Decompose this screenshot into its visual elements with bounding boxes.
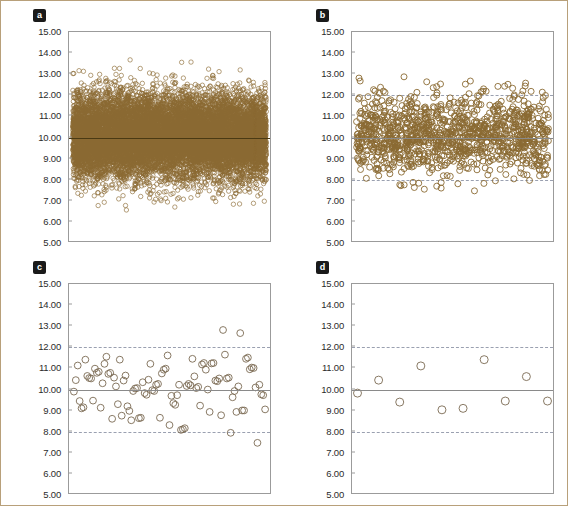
y-axis-labels-b: 15.0014.0013.0012.0011.0010.009.008.007.… bbox=[284, 1, 348, 253]
y-tick-label: 9.00 bbox=[326, 152, 344, 163]
y-tick-mark bbox=[351, 73, 355, 74]
plot-area-c bbox=[68, 283, 271, 494]
panel-c: c 15.0014.0013.0012.0011.0010.009.008.00… bbox=[1, 253, 284, 505]
y-tick-label: 15.00 bbox=[38, 26, 61, 37]
y-tick-label: 14.00 bbox=[38, 299, 61, 310]
scatter-points-a bbox=[69, 32, 270, 241]
y-tick-label: 6.00 bbox=[326, 215, 344, 226]
panel-grid: a 15.0014.0013.0012.0011.0010.009.008.00… bbox=[1, 1, 567, 505]
scatter-points-c bbox=[69, 284, 270, 493]
y-tick-label: 14.00 bbox=[321, 299, 344, 310]
y-tick-label: 7.00 bbox=[326, 194, 344, 205]
y-tick-label: 13.00 bbox=[38, 68, 61, 79]
y-tick-mark bbox=[351, 157, 355, 158]
y-tick-label: 13.00 bbox=[321, 320, 344, 331]
y-tick-label: 8.00 bbox=[43, 425, 61, 436]
y-tick-mark bbox=[68, 94, 72, 95]
y-tick-mark bbox=[351, 52, 355, 53]
y-tick-label: 12.00 bbox=[321, 341, 344, 352]
y-tick-mark bbox=[351, 367, 355, 368]
y-tick-mark bbox=[68, 346, 72, 347]
center-line bbox=[352, 390, 553, 391]
y-tick-mark bbox=[68, 451, 72, 452]
y-tick-label: 8.00 bbox=[326, 173, 344, 184]
y-tick-mark bbox=[68, 430, 72, 431]
y-tick-mark bbox=[351, 346, 355, 347]
y-tick-label: 6.00 bbox=[326, 467, 344, 478]
y-tick-label: 11.00 bbox=[322, 110, 344, 121]
y-tick-mark bbox=[351, 430, 355, 431]
y-tick-label: 15.00 bbox=[321, 26, 344, 37]
y-tick-mark bbox=[68, 52, 72, 53]
plot-area-a bbox=[68, 31, 271, 242]
y-tick-label: 12.00 bbox=[38, 341, 61, 352]
y-tick-mark bbox=[68, 73, 72, 74]
plot-wrap-c: 15.0014.0013.0012.0011.0010.009.008.007.… bbox=[1, 253, 284, 505]
y-tick-mark bbox=[68, 157, 72, 158]
y-tick-label: 12.00 bbox=[321, 89, 344, 100]
y-tick-label: 6.00 bbox=[43, 467, 61, 478]
y-tick-label: 10.00 bbox=[321, 383, 344, 394]
y-tick-mark bbox=[351, 388, 355, 389]
y-tick-mark bbox=[68, 367, 72, 368]
y-tick-label: 15.00 bbox=[38, 278, 61, 289]
y-axis-labels-d: 15.0014.0013.0012.0011.0010.009.008.007.… bbox=[284, 253, 348, 505]
y-tick-label: 5.00 bbox=[43, 237, 61, 248]
y-tick-label: 13.00 bbox=[321, 68, 344, 79]
y-tick-mark bbox=[68, 178, 72, 179]
y-tick-mark bbox=[68, 220, 72, 221]
y-tick-label: 10.00 bbox=[38, 131, 61, 142]
y-tick-mark bbox=[351, 136, 355, 137]
y-tick-mark bbox=[351, 472, 355, 473]
y-tick-label: 7.00 bbox=[43, 194, 61, 205]
y-tick-label: 7.00 bbox=[43, 446, 61, 457]
y-tick-mark bbox=[351, 304, 355, 305]
y-tick-label: 9.00 bbox=[43, 404, 61, 415]
y-tick-label: 14.00 bbox=[321, 47, 344, 58]
y-tick-label: 11.00 bbox=[322, 362, 344, 373]
y-tick-mark bbox=[351, 94, 355, 95]
y-tick-label: 13.00 bbox=[38, 320, 61, 331]
y-axis-labels-c: 15.0014.0013.0012.0011.0010.009.008.007.… bbox=[1, 253, 65, 505]
y-tick-mark bbox=[351, 325, 355, 326]
y-tick-label: 11.00 bbox=[39, 110, 61, 121]
y-tick-mark bbox=[68, 388, 72, 389]
y-tick-label: 5.00 bbox=[43, 489, 61, 500]
y-tick-mark bbox=[68, 136, 72, 137]
y-tick-mark bbox=[68, 304, 72, 305]
y-tick-label: 10.00 bbox=[38, 383, 61, 394]
plot-area-b bbox=[351, 31, 554, 242]
y-tick-label: 8.00 bbox=[43, 173, 61, 184]
plot-area-d bbox=[351, 283, 554, 494]
y-tick-mark bbox=[68, 199, 72, 200]
plot-wrap-a: 15.0014.0013.0012.0011.0010.009.008.007.… bbox=[1, 1, 284, 253]
y-tick-mark bbox=[351, 220, 355, 221]
panel-b: b 15.0014.0013.0012.0011.0010.009.008.00… bbox=[284, 1, 567, 253]
y-tick-label: 10.00 bbox=[321, 131, 344, 142]
y-tick-label: 7.00 bbox=[326, 446, 344, 457]
y-tick-mark bbox=[351, 451, 355, 452]
y-tick-mark bbox=[351, 115, 355, 116]
y-tick-mark bbox=[351, 409, 355, 410]
y-tick-label: 12.00 bbox=[38, 89, 61, 100]
scatter-points-d bbox=[352, 284, 553, 493]
y-tick-mark bbox=[68, 325, 72, 326]
y-tick-label: 6.00 bbox=[43, 215, 61, 226]
panel-a: a 15.0014.0013.0012.0011.0010.009.008.00… bbox=[1, 1, 284, 253]
y-tick-mark bbox=[68, 472, 72, 473]
y-tick-mark bbox=[351, 199, 355, 200]
panel-d: d 15.0014.0013.0012.0011.0010.009.008.00… bbox=[284, 253, 567, 505]
y-axis-labels-a: 15.0014.0013.0012.0011.0010.009.008.007.… bbox=[1, 1, 65, 253]
y-tick-mark bbox=[351, 178, 355, 179]
y-tick-mark bbox=[68, 115, 72, 116]
y-tick-mark bbox=[68, 409, 72, 410]
center-line bbox=[69, 138, 270, 139]
center-line bbox=[352, 138, 553, 139]
figure-container: a 15.0014.0013.0012.0011.0010.009.008.00… bbox=[0, 0, 568, 506]
y-tick-label: 9.00 bbox=[43, 152, 61, 163]
y-tick-label: 9.00 bbox=[326, 404, 344, 415]
center-line bbox=[69, 390, 270, 391]
plot-wrap-b: 15.0014.0013.0012.0011.0010.009.008.007.… bbox=[284, 1, 567, 253]
y-tick-label: 11.00 bbox=[39, 362, 61, 373]
scatter-points-b bbox=[352, 32, 553, 241]
